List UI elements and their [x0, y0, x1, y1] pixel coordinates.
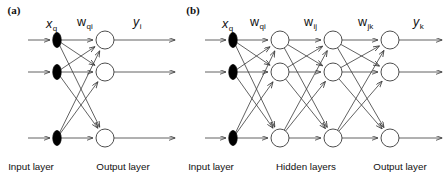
- node-input-layer-1: [53, 65, 61, 80]
- edge-2-1-0: [341, 46, 380, 68]
- symbol-w-ij: wij: [303, 15, 317, 31]
- edge-2-1-2: [339, 79, 382, 129]
- edge-1-1-0: [288, 46, 323, 67]
- edge-1-0-1: [288, 45, 323, 66]
- symbol-x-q: xq: [45, 17, 57, 33]
- node-hidden-layer-1-1: [271, 63, 289, 81]
- panel-b: (b)xqwqiwijwjkykInput layerHidden layers…: [186, 4, 442, 172]
- panel-tag: (b): [186, 4, 200, 17]
- edge-2-2-1: [339, 81, 382, 131]
- node-hidden-layer-2-2: [324, 129, 342, 147]
- node-hidden-layer-1-0: [271, 31, 289, 49]
- node-output-layer-1: [96, 63, 114, 81]
- symbol-w-jk: wjk: [357, 15, 374, 31]
- symbol-y-i: yi: [132, 15, 142, 31]
- node-output-layer-0: [96, 31, 114, 49]
- layer-label-output: Output layer: [96, 161, 150, 172]
- neural-network-figure: (a)xqwqiyiInput layerOutput layer(b)xqwq…: [0, 0, 446, 178]
- edge-0-0-1: [236, 42, 269, 65]
- symbol-w-qi: wqi: [249, 15, 266, 31]
- symbol-y-k: yk: [412, 15, 425, 31]
- symbol-w-qi: wqi: [76, 15, 93, 31]
- layer-label-input: Input layer: [8, 161, 54, 172]
- layer-label-output: Output layer: [373, 161, 427, 172]
- edge-1-2-0: [284, 51, 327, 130]
- edge-0-0-2: [235, 44, 275, 127]
- node-input-layer-1: [229, 65, 237, 80]
- edge-2-2-0: [338, 51, 384, 131]
- node-hidden-layer-2-1: [324, 63, 342, 81]
- node-input-layer-0: [53, 33, 61, 48]
- edge-0-2-1: [59, 82, 97, 135]
- layer-label-input: Input layer: [188, 161, 234, 172]
- edge-0-0-1: [60, 42, 94, 65]
- edge-0-0-2: [59, 44, 100, 127]
- node-output-layer-0: [381, 31, 399, 49]
- edge-1-2-1: [286, 82, 326, 131]
- panel-a: (a)xqwqiyiInput layerOutput layer: [8, 4, 175, 172]
- node-input-layer-0: [229, 33, 237, 48]
- layer-label-hidden: Hidden layers: [276, 161, 336, 172]
- node-output-layer-2: [381, 129, 399, 147]
- panel-tag: (a): [8, 4, 21, 17]
- edge-0-2-1: [235, 82, 272, 135]
- network-canvas: (a)xqwqiyiInput layerOutput layer(b)xqwq…: [0, 0, 446, 178]
- node-output-layer-1: [381, 63, 399, 81]
- symbol-x-q: xq: [221, 17, 233, 33]
- node-input-layer-2: [53, 131, 61, 146]
- node-input-layer-2: [229, 131, 237, 146]
- node-hidden-layer-1-2: [271, 129, 289, 147]
- node-output-layer-2: [96, 129, 114, 147]
- node-hidden-layer-2-0: [324, 31, 342, 49]
